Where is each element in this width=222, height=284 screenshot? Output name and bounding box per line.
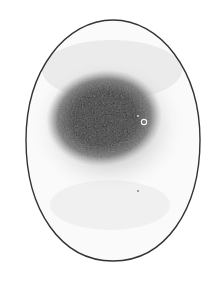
egg-drawing [0, 0, 222, 284]
egg-illustration [0, 0, 222, 284]
egg-interior [0, 0, 222, 284]
